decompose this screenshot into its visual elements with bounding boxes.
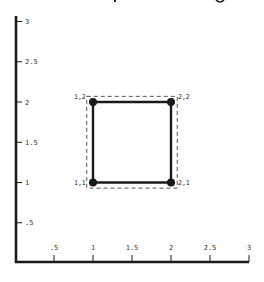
- x-axis-ticks: .511.522.53: [50, 244, 251, 262]
- x-tick: 1: [91, 244, 95, 262]
- vertex-point: 2,2: [167, 93, 190, 106]
- vertex-dot: [89, 98, 97, 106]
- vertex-label: 1,1: [74, 179, 86, 187]
- x-tick-label: 3: [247, 244, 251, 252]
- y-tick-label: 1: [25, 179, 29, 187]
- y-tick-label: 3: [25, 18, 29, 26]
- x-tick: 2: [169, 244, 173, 262]
- y-tick-label: 2.5: [25, 58, 38, 66]
- vertex-point: 1,1: [74, 179, 97, 187]
- y-tick: 2: [16, 99, 29, 107]
- y-tick: 3: [16, 18, 29, 26]
- y-tick-label: 2: [25, 99, 29, 107]
- vertex-label: 2,1: [178, 179, 190, 187]
- vertex-point: 1,2: [74, 93, 97, 106]
- unit-square: [93, 102, 171, 183]
- vertex-dot: [167, 179, 175, 187]
- cropped-title-fragment: [114, 0, 224, 2]
- vertex-dot: [167, 98, 175, 106]
- y-tick-label: .5: [25, 219, 33, 227]
- dashed-bounding-box: [87, 96, 177, 188]
- coordinate-diagram: .511.522.53 .511.522.53 1,22,21,12,1: [0, 0, 264, 282]
- x-tick: .5: [50, 244, 58, 262]
- x-tick-label: 1.5: [126, 244, 139, 252]
- y-axis-ticks: .511.522.53: [16, 18, 38, 227]
- x-tick: 1.5: [126, 244, 139, 262]
- x-tick: 3: [247, 244, 251, 262]
- vertex-point: 2,1: [167, 179, 190, 187]
- y-tick: 1: [16, 179, 29, 187]
- x-tick-label: 1: [91, 244, 95, 252]
- y-tick-label: 1.5: [25, 139, 38, 147]
- y-tick: 2.5: [16, 58, 38, 66]
- vertex-label: 1,2: [74, 93, 86, 101]
- y-tick: 1.5: [16, 139, 38, 147]
- x-tick: 2.5: [204, 244, 217, 262]
- vertex-label: 2,2: [178, 93, 190, 101]
- x-tick-label: 2: [169, 244, 173, 252]
- y-tick: .5: [16, 219, 33, 227]
- vertex-points: 1,22,21,12,1: [74, 93, 190, 187]
- x-tick-label: .5: [50, 244, 58, 252]
- x-tick-label: 2.5: [204, 244, 217, 252]
- vertex-dot: [89, 179, 97, 187]
